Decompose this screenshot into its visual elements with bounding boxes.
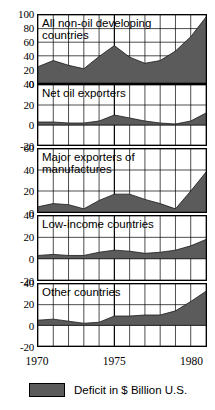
plot-area-other-countries xyxy=(37,283,207,347)
plot-area-low-income-countries xyxy=(37,215,207,281)
plot-area-major-exporters-of-manufactures xyxy=(37,148,207,213)
panel-other-countries: -2002040 xyxy=(0,283,215,347)
y-tick-label: -20 xyxy=(20,342,34,353)
y-tick-label: 80 xyxy=(23,23,34,34)
y-axis-all-non-oil-developing-countries: 020406080100 xyxy=(0,14,36,84)
x-tick-label: 1980 xyxy=(180,355,203,367)
figure: 020406080100-20020400204060-2002040-2002… xyxy=(0,0,215,410)
panel-net-oil-exporters: -2002040 xyxy=(0,84,215,146)
panel-major-exporters-of-manufactures: 0204060 xyxy=(0,148,215,213)
y-tick-label: 40 xyxy=(23,164,34,175)
y-tick-label: 20 xyxy=(23,186,34,197)
y-tick-label: 60 xyxy=(23,37,34,48)
panel-all-non-oil-developing-countries: 020406080100 xyxy=(0,14,215,84)
y-tick-label: 0 xyxy=(29,254,34,265)
legend-label-deficit: Deficit in $ Billion U.S. xyxy=(74,384,187,396)
y-axis-low-income-countries: -2002040 xyxy=(0,215,36,281)
x-tick-label: 1970 xyxy=(26,355,49,367)
y-tick-label: 40 xyxy=(23,79,34,90)
y-tick-label: 20 xyxy=(23,232,34,243)
y-tick-label: 100 xyxy=(18,9,34,20)
y-tick-label: 20 xyxy=(23,299,34,310)
chart-legend: Deficit in $ Billion U.S. xyxy=(0,383,215,397)
x-tick-label: 1975 xyxy=(103,355,126,367)
y-tick-label: 60 xyxy=(23,143,34,154)
y-tick-label: 20 xyxy=(23,65,34,76)
y-tick-label: 0 xyxy=(29,320,34,331)
y-tick-label: 0 xyxy=(29,120,34,131)
plot-area-all-non-oil-developing-countries xyxy=(37,14,207,84)
x-axis: 197019751980 xyxy=(0,355,215,373)
plot-area-net-oil-exporters xyxy=(37,84,207,146)
y-tick-label: 40 xyxy=(23,51,34,62)
y-tick-label: 20 xyxy=(23,99,34,110)
y-tick-label: 40 xyxy=(23,210,34,221)
y-tick-label: 40 xyxy=(23,278,34,289)
y-axis-major-exporters-of-manufactures: 0204060 xyxy=(0,148,36,213)
panel-low-income-countries: -2002040 xyxy=(0,215,215,281)
y-axis-net-oil-exporters: -2002040 xyxy=(0,84,36,146)
y-axis-other-countries: -2002040 xyxy=(0,283,36,347)
legend-swatch-deficit xyxy=(29,383,65,397)
